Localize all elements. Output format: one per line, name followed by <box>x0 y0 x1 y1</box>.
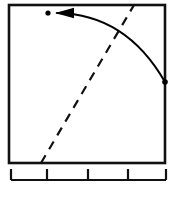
plot-figure <box>0 0 178 206</box>
plot-box-border <box>9 5 165 163</box>
origin-point <box>162 79 168 85</box>
target-point <box>45 10 50 15</box>
figure-root <box>0 0 178 206</box>
